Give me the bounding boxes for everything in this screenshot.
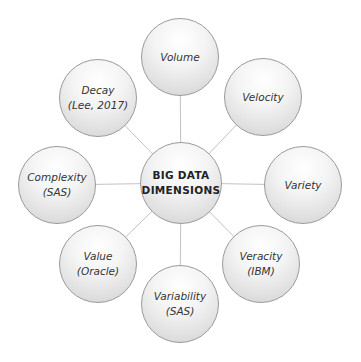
node-variety-label: Variety xyxy=(285,178,322,193)
big-data-dimensions-diagram: Volume Velocity Variety Veracity (IBM) V… xyxy=(0,0,361,362)
node-volume: Volume xyxy=(141,18,219,96)
node-veracity-sublabel: (IBM) xyxy=(247,264,275,279)
node-value: Value (Oracle) xyxy=(59,225,137,303)
node-complexity-sublabel: (SAS) xyxy=(43,185,72,200)
node-center-big-data-dimensions: BIG DATA DIMENSIONS xyxy=(140,142,222,224)
node-veracity: Veracity (IBM) xyxy=(222,225,300,303)
hub-label-line1: BIG DATA xyxy=(152,168,209,183)
node-volume-label: Volume xyxy=(160,50,199,65)
node-velocity: Velocity xyxy=(224,58,302,136)
node-decay-label: Decay xyxy=(82,83,115,98)
node-value-sublabel: (Oracle) xyxy=(77,264,119,279)
node-decay-sublabel: (Lee, 2017) xyxy=(68,98,128,113)
node-variety: Variety xyxy=(264,146,342,224)
node-variability-label: Variability xyxy=(154,289,206,304)
node-decay: Decay (Lee, 2017) xyxy=(59,59,137,137)
node-complexity-label: Complexity xyxy=(27,170,87,185)
node-variability: Variability (SAS) xyxy=(141,265,219,343)
node-veracity-label: Veracity xyxy=(240,249,283,264)
node-velocity-label: Velocity xyxy=(242,90,283,105)
node-variability-sublabel: (SAS) xyxy=(166,304,195,319)
node-value-label: Value xyxy=(84,249,113,264)
hub-label-line2: DIMENSIONS xyxy=(142,183,221,198)
node-complexity: Complexity (SAS) xyxy=(18,146,96,224)
